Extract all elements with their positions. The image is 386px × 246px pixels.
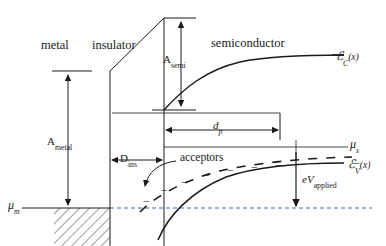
ec-base: ℰ: [336, 49, 343, 63]
acceptor-minus-mark: −: [227, 164, 234, 176]
a-metal-base: A: [47, 135, 55, 147]
mu-s-label: μs: [350, 138, 359, 153]
d-ins-base: D: [120, 152, 128, 164]
acceptor-minus-mark: −: [327, 157, 334, 169]
band-diagram-figure: metal insulator semiconductor Asemi Amet…: [0, 0, 386, 246]
acceptor-minus-mark: −: [181, 176, 188, 188]
ev-applied-label: eVapplied: [302, 174, 337, 188]
mu-m-subscript: m: [14, 207, 20, 216]
ev-applied-subscript: applied: [314, 181, 337, 190]
acceptors-label: acceptors: [180, 152, 223, 164]
ec-subscript: C: [343, 59, 348, 68]
band-diagram-canvas: [0, 0, 386, 246]
acceptor-minus-mark: −: [161, 184, 168, 196]
a-metal-label: Ametal: [47, 136, 72, 150]
semiconductor-region-label: semiconductor: [211, 37, 285, 50]
mu-m-label: μm: [8, 199, 20, 214]
a-semi-label: Asemi: [163, 54, 186, 68]
acceptor-minus-mark: −: [203, 169, 210, 181]
conduction-band-curve: [164, 55, 344, 110]
acceptor-minus-mark: −: [143, 195, 150, 207]
d-ins-label: Dins: [120, 153, 137, 167]
ec-argument: (x): [348, 52, 359, 62]
dp-subscript: p: [219, 127, 223, 136]
metal-region-label: metal: [41, 39, 69, 52]
acceptor-minus-mark: −: [275, 159, 282, 171]
a-semi-subscript: semi: [171, 61, 186, 70]
acceptor-minus-mark: −: [251, 161, 258, 173]
ec-label: ℰC(x): [336, 47, 359, 66]
acceptor-minus-mark: −: [299, 158, 306, 170]
ev-applied-base: V: [307, 173, 314, 185]
dp-base: d: [213, 119, 219, 131]
dp-label: dp: [213, 120, 222, 134]
metal-hatched-region: [54, 208, 110, 246]
ev-argument: (x): [360, 160, 371, 170]
a-metal-subscript: metal: [55, 143, 72, 152]
acceptor-minus-mark: −: [353, 157, 360, 169]
d-ins-subscript: ins: [128, 160, 137, 169]
insulator-region-label: insulator: [92, 39, 136, 52]
a-semi-base: A: [163, 53, 171, 65]
